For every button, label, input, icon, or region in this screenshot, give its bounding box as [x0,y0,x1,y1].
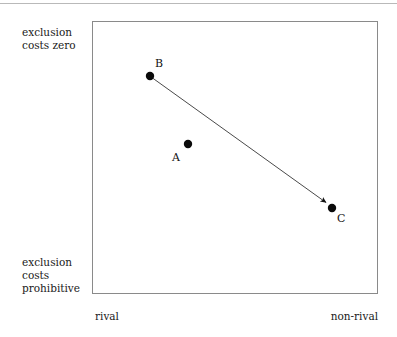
data-point-label-b: B [155,58,163,69]
data-point-label-a: A [172,152,180,163]
y-axis-bottom-label: exclusion costs prohibitive [22,256,80,295]
top-horizontal-rule [0,3,397,4]
x-axis-left-label: rival [95,310,119,323]
y-axis-top-label: exclusion costs zero [22,26,76,52]
x-axis-right-label: non-rival [325,310,378,323]
data-point-label-c: C [337,213,345,224]
figure-container: B A C exclusion costs zero exclusion cos… [0,0,397,337]
plot-frame [92,21,378,294]
